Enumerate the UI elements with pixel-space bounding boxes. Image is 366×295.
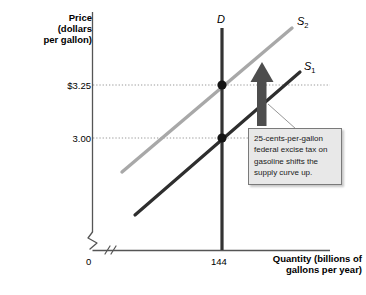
callout-leader-line xyxy=(268,104,296,129)
equilibrium-point-before-tax xyxy=(217,133,226,142)
shift-arrow-icon xyxy=(251,62,274,126)
y-tick-label-300: 3.00 xyxy=(73,133,92,144)
tax-callout-text: 25-cents-per-gallon federal excise tax o… xyxy=(254,133,338,178)
tax-callout-box: 25-cents-per-gallon federal excise tax o… xyxy=(248,128,342,185)
supply-demand-chart: Price (dollars per gallon) Quantity (bil… xyxy=(0,0,366,295)
curve-label-supply-s1: S1 xyxy=(304,60,316,76)
x-tick-label-144: 144 xyxy=(211,256,227,267)
curve-label-s1-subscript: 1 xyxy=(311,66,315,75)
y-tick-label-325: $3.25 xyxy=(67,80,91,91)
curve-label-demand: D xyxy=(217,13,225,26)
x-axis-title: Quantity (billions of gallons per year) xyxy=(258,253,362,275)
x-tick-label-zero: 0 xyxy=(86,256,91,267)
y-axis-title: Price (dollars per gallon) xyxy=(43,12,92,46)
curve-label-s2-subscript: 2 xyxy=(304,21,308,30)
equilibrium-point-after-tax xyxy=(217,80,226,89)
y-axis-break-icon xyxy=(88,232,97,249)
curve-label-supply-s2: S2 xyxy=(297,15,309,31)
